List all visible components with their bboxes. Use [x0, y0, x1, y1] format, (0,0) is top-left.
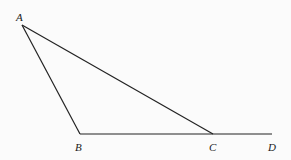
point-label-a: A — [16, 12, 23, 23]
geometry-diagram: A B C D — [0, 0, 291, 160]
point-label-c: C — [209, 142, 216, 153]
point-label-b: B — [75, 142, 82, 153]
point-label-d: D — [268, 142, 276, 153]
triangle-figure — [0, 0, 291, 160]
